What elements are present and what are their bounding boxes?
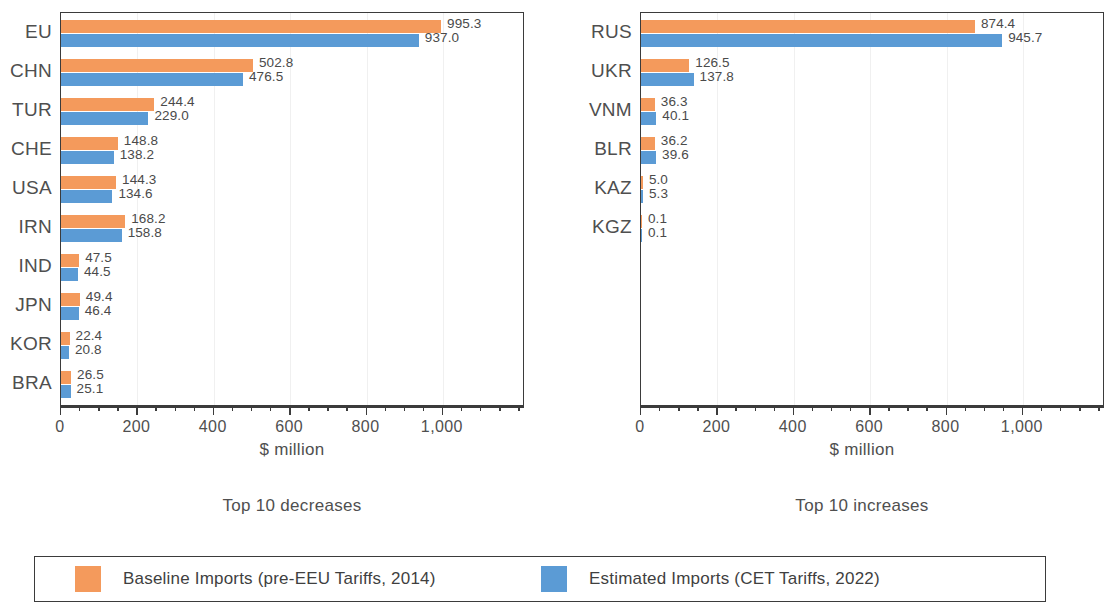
bar-group-row: CHN502.8476.5 <box>61 54 523 93</box>
bar-estimated-chn <box>61 73 243 86</box>
bar-baseline-che <box>61 137 118 150</box>
axis-tick-major <box>1022 406 1023 415</box>
axis-tick-minor <box>385 406 386 411</box>
bar-group-row: EU995.3937.0 <box>61 15 523 54</box>
bar-value-baseline-rus: 874.4 <box>981 16 1015 31</box>
bar-value-estimated-tur: 229.0 <box>154 108 188 123</box>
bar-value-baseline-kor: 22.4 <box>76 328 103 343</box>
axis-tick-minor <box>270 406 271 411</box>
axis-tick-major <box>136 406 137 415</box>
axis-tick-minor <box>423 406 424 411</box>
bar-value-estimated-che: 138.2 <box>120 147 154 162</box>
bar-value-baseline-kgz: 0.1 <box>648 211 667 226</box>
axis-tick-minor <box>907 406 908 411</box>
legend-swatch-baseline-icon <box>75 566 101 592</box>
axis-tick-minor <box>774 406 775 411</box>
category-label-chn: CHN <box>10 60 52 82</box>
bar-baseline-chn <box>61 59 253 72</box>
bar-value-baseline-ukr: 126.5 <box>695 55 729 70</box>
bar-value-estimated-irn: 158.8 <box>128 225 162 240</box>
bar-value-estimated-eu: 937.0 <box>425 30 459 45</box>
category-label-kor: KOR <box>10 333 52 355</box>
bar-estimated-ind <box>61 268 78 281</box>
bar-estimated-rus <box>641 34 1002 47</box>
axis-tick-label: 200 <box>122 418 150 436</box>
bar-baseline-kor <box>61 332 70 345</box>
bar-baseline-vnm <box>641 98 655 111</box>
axis-tick-major <box>716 406 717 415</box>
bar-baseline-ukr <box>641 59 689 72</box>
bar-group-row: KOR22.420.8 <box>61 327 523 366</box>
bar-value-estimated-rus: 945.7 <box>1008 30 1042 45</box>
axis-tick-minor <box>79 406 80 411</box>
axis-tick-major <box>289 406 290 415</box>
bar-group-row: BRA26.525.1 <box>61 366 523 405</box>
axis-tick-major <box>60 406 61 415</box>
x-axis-title-increases: $ million <box>640 440 1084 460</box>
axis-tick-label: 600 <box>275 418 303 436</box>
axis-tick-major <box>640 406 641 415</box>
axis-tick-minor <box>155 406 156 411</box>
bar-estimated-ukr <box>641 73 694 86</box>
bar-estimated-kaz <box>641 190 643 203</box>
bar-value-estimated-jpn: 46.4 <box>85 303 112 318</box>
bar-group-row: UKR126.5137.8 <box>641 54 1103 93</box>
axis-tick-minor <box>926 406 927 411</box>
axis-tick-label: 200 <box>702 418 730 436</box>
axis-tick-minor <box>1060 406 1061 411</box>
bar-group-row: BLR36.239.6 <box>641 132 1103 171</box>
bar-value-baseline-kaz: 5.0 <box>649 172 668 187</box>
axis-tick-minor <box>194 406 195 411</box>
bar-estimated-che <box>61 151 114 164</box>
bar-baseline-irn <box>61 215 125 228</box>
panel-caption-increases: Top 10 increases <box>640 496 1084 516</box>
axis-tick-minor <box>346 406 347 411</box>
axis-tick-minor <box>888 406 889 411</box>
category-label-rus: RUS <box>591 21 632 43</box>
category-label-usa: USA <box>12 177 52 199</box>
axis-tick-major <box>793 406 794 415</box>
axis-line <box>60 406 524 408</box>
axis-tick-minor <box>984 406 985 411</box>
axis-tick-label: 0 <box>635 418 644 436</box>
bar-estimated-bra <box>61 385 71 398</box>
axis-tick-minor <box>965 406 966 411</box>
axis-tick-minor <box>232 406 233 411</box>
plot-area-increases: RUS874.4945.7UKR126.5137.8VNM36.340.1BLR… <box>640 12 1104 406</box>
axis-tick-minor <box>308 406 309 411</box>
axis-tick-minor <box>1041 406 1042 411</box>
bar-group-row: USA144.3134.6 <box>61 171 523 210</box>
axis-tick-major <box>213 406 214 415</box>
bar-value-baseline-chn: 502.8 <box>259 55 293 70</box>
bar-group-row: RUS874.4945.7 <box>641 15 1103 54</box>
axis-tick-label: 0 <box>55 418 64 436</box>
axis-tick-minor <box>327 406 328 411</box>
legend-item-baseline-imports: Baseline Imports (pre-EEU Tariffs, 2014) <box>75 566 436 592</box>
bar-group-row: IND47.544.5 <box>61 249 523 288</box>
bar-value-estimated-kor: 20.8 <box>75 342 102 357</box>
bar-group-row: KGZ0.10.1 <box>641 210 1103 249</box>
axis-tick-minor <box>735 406 736 411</box>
bar-value-estimated-vnm: 40.1 <box>662 108 689 123</box>
bar-baseline-kgz <box>641 215 642 228</box>
category-label-blr: BLR <box>594 138 632 160</box>
bar-estimated-eu <box>61 34 419 47</box>
bar-baseline-eu <box>61 20 441 33</box>
bar-group-row: KAZ5.05.3 <box>641 171 1103 210</box>
category-label-kaz: KAZ <box>594 177 632 199</box>
axis-tick-minor <box>499 406 500 411</box>
legend-item-estimated-imports: Estimated Imports (CET Tariffs, 2022) <box>541 566 880 592</box>
axis-tick-minor <box>461 406 462 411</box>
axis-tick-minor <box>98 406 99 411</box>
bar-value-estimated-kgz: 0.1 <box>648 225 667 240</box>
axis-tick-minor <box>812 406 813 411</box>
axis-tick-minor <box>117 406 118 411</box>
bar-value-estimated-ukr: 137.8 <box>700 69 734 84</box>
bar-estimated-usa <box>61 190 112 203</box>
bar-baseline-bra <box>61 371 71 384</box>
category-label-kgz: KGZ <box>592 216 632 238</box>
bar-value-baseline-vnm: 36.3 <box>661 94 688 109</box>
panel-caption-decreases: Top 10 decreases <box>60 496 524 516</box>
bar-value-baseline-usa: 144.3 <box>122 172 156 187</box>
